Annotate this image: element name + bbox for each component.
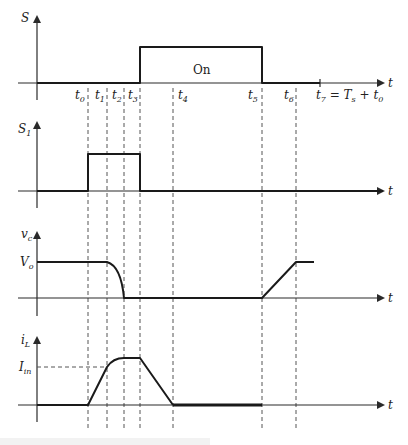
vc-waveform — [37, 262, 314, 298]
y-label-vc: vc — [21, 227, 33, 243]
panel-vc: vc Vo t — [18, 227, 393, 316]
label-t3: t3 — [128, 88, 138, 104]
panel-S1: S1 t — [18, 122, 393, 208]
t-axis-label-iL: t — [388, 398, 393, 412]
level-label-Iin: Iin — [18, 360, 31, 376]
panel-iL: iL Iin t — [18, 333, 393, 422]
label-t4: t4 — [178, 88, 188, 104]
time-marker-lines — [88, 88, 296, 428]
panel-S: S t On t0 t1 t2 t3 t4 t5 t6 t7 = Ts + t0 — [18, 11, 393, 104]
label-t7: t7 = Ts + t0 — [316, 88, 383, 104]
level-label-Vo: Vo — [20, 255, 34, 271]
on-label: On — [193, 63, 211, 77]
label-t2: t2 — [112, 88, 122, 104]
label-t6: t6 — [284, 88, 294, 104]
t-axis-label-S1: t — [388, 184, 393, 198]
S1-waveform — [37, 154, 383, 191]
label-t1: t1 — [95, 88, 105, 104]
caption-fragment — [0, 438, 210, 445]
t-axis-label-vc: t — [388, 291, 393, 305]
label-t5: t5 — [248, 88, 258, 104]
t-axis-label: t — [388, 76, 393, 90]
timing-diagram: S t On t0 t1 t2 t3 t4 t5 t6 t7 = Ts + t0… — [0, 0, 408, 445]
y-label-iL: iL — [21, 333, 30, 349]
S-waveform — [37, 47, 320, 83]
y-label-S1: S1 — [18, 122, 31, 138]
iL-waveform — [37, 358, 173, 405]
y-label-S: S — [21, 11, 29, 25]
label-t0: t0 — [75, 88, 85, 104]
